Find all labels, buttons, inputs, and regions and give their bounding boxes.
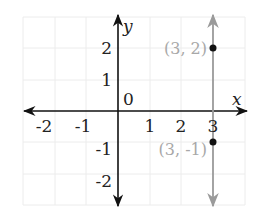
y-axis-label: y — [122, 16, 133, 36]
origin-label: 0 — [123, 89, 134, 109]
x-tick: 2 — [176, 116, 187, 136]
x-tick: 1 — [145, 116, 156, 136]
x-tick: -2 — [36, 116, 53, 136]
point-3-2 — [210, 45, 217, 52]
point-label-3-neg1: (3, -1) — [159, 140, 207, 159]
x-tick: -1 — [75, 116, 92, 136]
x-tick: 3 — [208, 116, 219, 136]
coordinate-plane: y x 0 -2 -1 1 2 3 2 1 -1 -2 (3, 2) (3, -… — [0, 0, 260, 211]
point-label-3-2: (3, 2) — [164, 39, 207, 58]
point-3-neg1 — [210, 139, 217, 146]
y-tick: -1 — [95, 139, 112, 159]
y-tick: -2 — [95, 171, 112, 191]
y-tick: 1 — [101, 70, 112, 90]
y-tick: 2 — [101, 38, 112, 58]
x-axis-label: x — [232, 89, 242, 109]
